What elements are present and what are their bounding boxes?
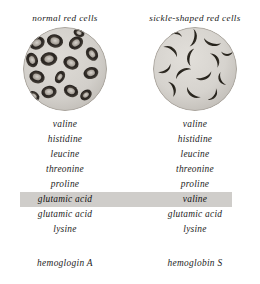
amino-acid-right: lysine bbox=[130, 222, 260, 237]
amino-acid-left-highlighted: glutamic acid bbox=[0, 192, 130, 207]
sequence-row: valine valine bbox=[0, 117, 260, 132]
micrograph-row bbox=[0, 27, 260, 111]
column-headers: normal red cells sickle-shaped red cells bbox=[0, 13, 260, 23]
amino-acid-right: glutamic acid bbox=[130, 207, 260, 222]
amino-acid-left: lysine bbox=[0, 222, 130, 237]
amino-acid-left: valine bbox=[0, 117, 130, 132]
hemoglobin-comparison-figure: normal red cells sickle-shaped red cells bbox=[0, 0, 260, 284]
amino-acid-right: valine bbox=[130, 117, 260, 132]
sequence-row: proline proline bbox=[0, 177, 260, 192]
column-header-sickle: sickle-shaped red cells bbox=[130, 13, 260, 23]
amino-acid-sequences: valine valine histidine histidine leucin… bbox=[0, 117, 260, 237]
caption-hemoglobin-a: hemoglogin A bbox=[0, 258, 130, 268]
sequence-rows: valine valine histidine histidine leucin… bbox=[0, 117, 260, 237]
caption-hemoglobin-s: hemoglobin S bbox=[130, 258, 260, 268]
normal-red-cells-micrograph bbox=[23, 27, 107, 111]
sequence-row: threonine threonine bbox=[0, 162, 260, 177]
amino-acid-left: leucine bbox=[0, 147, 130, 162]
micrograph-cell-normal bbox=[0, 27, 130, 111]
micrograph-cell-sickle bbox=[130, 27, 260, 111]
column-header-normal: normal red cells bbox=[0, 13, 130, 23]
amino-acid-left: histidine bbox=[0, 132, 130, 147]
amino-acid-right: proline bbox=[130, 177, 260, 192]
sequence-row: glutamic acid glutamic acid bbox=[0, 207, 260, 222]
amino-acid-right-highlighted: valine bbox=[130, 192, 260, 207]
sequence-row-highlighted: glutamic acid valine bbox=[0, 192, 260, 207]
sequence-row: leucine leucine bbox=[0, 147, 260, 162]
amino-acid-right: leucine bbox=[130, 147, 260, 162]
amino-acid-right: threonine bbox=[130, 162, 260, 177]
sequence-row: histidine histidine bbox=[0, 132, 260, 147]
sickle-shaped-red-cells-micrograph bbox=[153, 27, 237, 111]
sequence-row: lysine lysine bbox=[0, 222, 260, 237]
amino-acid-left: proline bbox=[0, 177, 130, 192]
amino-acid-left: threonine bbox=[0, 162, 130, 177]
amino-acid-left: glutamic acid bbox=[0, 207, 130, 222]
figure-captions: hemoglogin A hemoglobin S bbox=[0, 258, 260, 268]
amino-acid-right: histidine bbox=[130, 132, 260, 147]
